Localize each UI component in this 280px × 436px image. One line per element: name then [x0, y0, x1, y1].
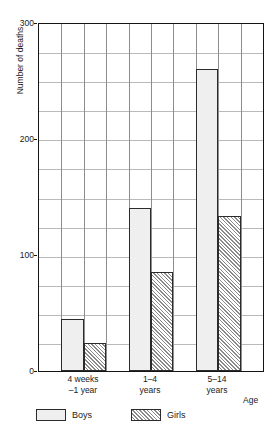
y-tick-mark-0 [34, 371, 37, 372]
y-tick-label-0: 0 [0, 367, 34, 376]
bar-boys-1-4-years [129, 208, 151, 371]
bar-girls-1-4-years [151, 272, 173, 371]
legend-swatch-girls-icon [131, 409, 161, 421]
bar-girls-4weeks-1year [84, 343, 106, 371]
y-tick-label-100: 100 [0, 251, 34, 260]
y-tick-label-300: 300 [0, 19, 34, 28]
plot-area [38, 23, 264, 372]
legend-swatch-boys-icon [36, 409, 66, 421]
x-axis-title: Age [243, 396, 258, 405]
y-tick-label-200: 200 [0, 135, 34, 144]
x-tick-line1-5-14: 5–14 [174, 374, 260, 385]
legend-item-girls: Girls [131, 409, 186, 421]
y-tick-mark-100 [34, 255, 37, 256]
bar-girls-5-14-years [218, 216, 240, 371]
y-tick-mark-300 [34, 23, 37, 24]
x-axis-ticks: 4 weeks –1 year 1–4 years 5–14 years [38, 374, 264, 404]
bar-boys-5-14-years [196, 69, 218, 372]
bar-boys-4weeks-1year [61, 319, 83, 371]
x-tick-label-5-14-years: 5–14 years [174, 374, 260, 395]
y-tick-mark-200 [34, 139, 37, 140]
x-tick-line2-years: years [174, 385, 260, 396]
legend-label-boys: Boys [72, 410, 92, 420]
legend: Boys Girls [36, 409, 256, 429]
legend-label-girls: Girls [167, 410, 186, 420]
bar-chart: Number of deaths 300 200 100 0 [0, 0, 280, 436]
legend-item-boys: Boys [36, 409, 92, 421]
y-axis-ticks: 300 200 100 0 [0, 23, 34, 372]
bars [39, 24, 263, 371]
